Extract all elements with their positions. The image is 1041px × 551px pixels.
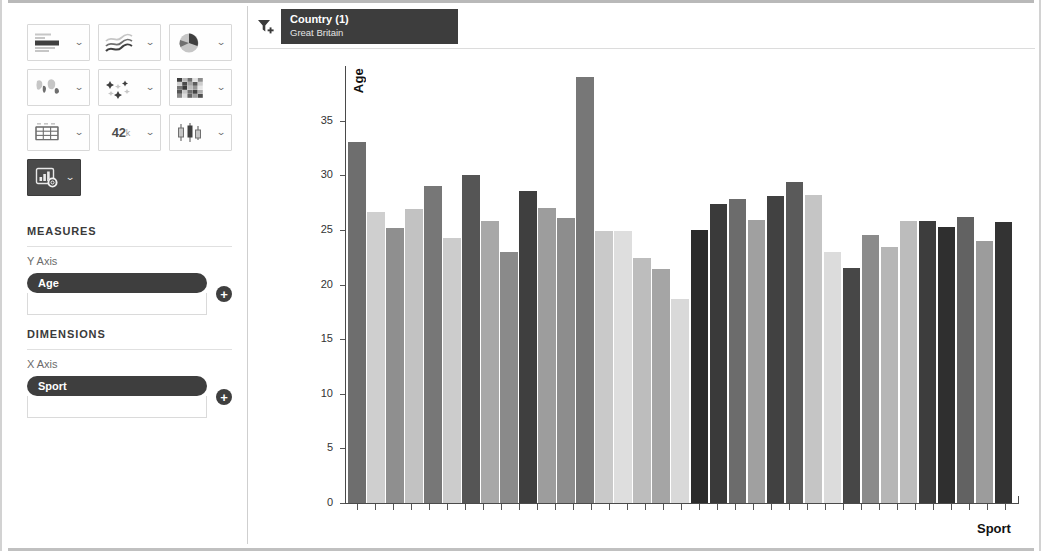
heatmap-chart-button[interactable]: ⌄	[169, 69, 232, 106]
chart-bar[interactable]	[824, 252, 842, 503]
dimensions-divider	[27, 349, 232, 350]
chart-bar[interactable]	[671, 299, 689, 503]
pie-chart-button[interactable]: ⌄	[169, 24, 232, 61]
left-config-panel: ⌄ ⌄ ⌄ ⌄	[6, 6, 248, 544]
dimension-pill-sport[interactable]: Sport	[27, 376, 207, 396]
y-axis-tick	[340, 230, 345, 231]
chart-panel: Country (1) Great Britain 05101520253035…	[249, 6, 1035, 544]
chart-bar[interactable]	[462, 175, 480, 503]
chart-bar[interactable]	[938, 227, 956, 503]
chart-bar[interactable]	[957, 217, 975, 503]
measure-pill-label: Age	[38, 277, 59, 289]
bar-chart-button[interactable]: ⌄	[27, 24, 90, 61]
add-measure-button[interactable]: +	[216, 286, 232, 302]
chart-bar[interactable]	[519, 191, 537, 503]
y-axis-tick	[340, 285, 345, 286]
y-axis-tick-label: 25	[307, 223, 333, 235]
chevron-down-icon[interactable]: ⌄	[65, 173, 76, 182]
viz-picker-row: ⌄ ⌄ ⌄	[27, 24, 232, 61]
kpi-chart-button[interactable]: 42k⌄	[98, 114, 161, 151]
boxplot-chart-button[interactable]: ⌄	[169, 114, 232, 151]
y-axis-tick	[340, 394, 345, 395]
chart-bar[interactable]	[405, 209, 423, 503]
chart-bar[interactable]	[995, 222, 1013, 503]
x-axis-tick	[519, 504, 520, 510]
map-chart-button[interactable]: ⌄	[27, 69, 90, 106]
line-chart-icon	[104, 30, 134, 56]
chevron-down-icon[interactable]: ⌄	[145, 38, 156, 47]
chart-bar[interactable]	[595, 231, 613, 503]
y-axis-tick	[340, 121, 345, 122]
chart-bar[interactable]	[633, 258, 651, 503]
x-axis-tick	[375, 504, 376, 510]
measures-dropzone[interactable]	[27, 293, 207, 315]
filter-chip-country[interactable]: Country (1) Great Britain	[281, 9, 458, 44]
chart-bar[interactable]	[786, 182, 804, 503]
x-axis-tick	[969, 504, 970, 510]
viz-picker-row: ⌄	[27, 159, 232, 196]
table-chart-button[interactable]: ⌄	[27, 114, 90, 151]
x-axis-tick	[933, 504, 934, 510]
bar-chart: 05101520253035AgeSport	[249, 48, 1035, 544]
add-dimension-button[interactable]: +	[216, 389, 232, 405]
chart-bar[interactable]	[367, 212, 385, 503]
x-axis-tick	[861, 504, 862, 510]
chart-bar[interactable]	[386, 228, 404, 503]
scatter-chart-button[interactable]: ⌄	[98, 69, 161, 106]
chart-bar[interactable]	[538, 208, 556, 503]
chart-bar[interactable]	[862, 235, 880, 503]
chart-bar[interactable]	[348, 142, 366, 503]
y-axis-line	[345, 66, 346, 504]
x-axis-tick	[681, 504, 682, 510]
chart-bar[interactable]	[881, 247, 899, 503]
chart-bar[interactable]	[805, 195, 823, 503]
chevron-down-icon[interactable]: ⌄	[216, 128, 227, 137]
chart-bar[interactable]	[919, 221, 937, 503]
chart-bar[interactable]	[443, 238, 461, 503]
chart-bar[interactable]	[652, 269, 670, 503]
chart-bar[interactable]	[976, 241, 994, 503]
chevron-down-icon[interactable]: ⌄	[145, 128, 156, 137]
x-axis-tick	[915, 504, 916, 510]
x-axis-tick	[951, 504, 952, 510]
visualization-type-picker: ⌄ ⌄ ⌄ ⌄	[27, 24, 232, 204]
x-axis-tick	[555, 504, 556, 510]
x-axis-tick	[771, 504, 772, 510]
custom-chart-button[interactable]: ⌄	[27, 159, 81, 196]
x-axis-tick	[573, 504, 574, 510]
chevron-down-icon[interactable]: ⌄	[216, 38, 227, 47]
chart-bar[interactable]	[767, 196, 785, 503]
dimensions-dropzone[interactable]	[27, 396, 207, 418]
measure-pill-age[interactable]: Age	[27, 273, 207, 293]
chart-bar[interactable]	[843, 268, 861, 503]
chevron-down-icon[interactable]: ⌄	[74, 128, 85, 137]
x-axis-tick	[465, 504, 466, 510]
x-axis-tick	[447, 504, 448, 510]
dimension-pill-label: Sport	[38, 380, 67, 392]
chart-bar[interactable]	[481, 221, 499, 503]
chevron-down-icon[interactable]: ⌄	[74, 83, 85, 92]
chart-bar[interactable]	[424, 186, 442, 503]
filter-add-icon[interactable]	[249, 6, 281, 48]
chevron-down-icon[interactable]: ⌄	[74, 38, 85, 47]
chart-bar[interactable]	[748, 220, 766, 503]
chevron-down-icon[interactable]: ⌄	[145, 83, 156, 92]
x-axis-tick	[663, 504, 664, 510]
y-axis-tick-label: 35	[307, 114, 333, 126]
chart-bar[interactable]	[710, 204, 728, 503]
chart-bar[interactable]	[900, 221, 918, 503]
chart-bar[interactable]	[614, 231, 632, 503]
chart-bar[interactable]	[729, 199, 747, 503]
chart-bar[interactable]	[557, 218, 575, 503]
chart-bar[interactable]	[691, 230, 709, 503]
chart-bar[interactable]	[576, 77, 594, 503]
scatter-chart-icon	[104, 75, 134, 101]
x-axis-tick	[735, 504, 736, 510]
y-axis-tick-label: 20	[307, 278, 333, 290]
chart-bar[interactable]	[500, 252, 518, 503]
dimensions-section-title: DIMENSIONS	[27, 328, 232, 340]
x-axis-title: Sport	[977, 521, 1011, 536]
line-chart-button[interactable]: ⌄	[98, 24, 161, 61]
chevron-down-icon[interactable]: ⌄	[216, 83, 227, 92]
x-axis-tick	[483, 504, 484, 510]
